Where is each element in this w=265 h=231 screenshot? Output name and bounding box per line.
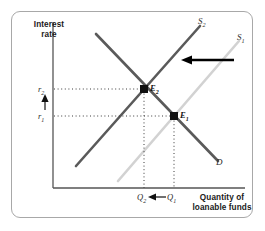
- x-axis-title-line2: loanable funds: [192, 203, 251, 212]
- demand-curve: [96, 34, 218, 161]
- x-axis-title: Quantity of loanable funds: [186, 193, 258, 213]
- tick-label-q2-sub: 2: [143, 198, 146, 204]
- curve-label-d-text: D: [216, 157, 223, 167]
- y-axis-title-line1: Interest: [34, 20, 64, 29]
- equilibrium-label-e2: E2: [150, 83, 159, 95]
- quantity-decrease-arrow-icon: [148, 193, 166, 200]
- tick-label-q1-sub: 1: [173, 198, 176, 204]
- y-axis-title: Interest rate: [26, 20, 72, 40]
- tick-label-r2-sub: 2: [41, 90, 44, 96]
- curve-label-s1-sub: 1: [242, 37, 245, 44]
- figure-root: Interest rate Quantity of loanable funds…: [0, 0, 265, 231]
- curve-label-s1: S1: [237, 32, 245, 44]
- curve-label-d: D: [216, 157, 223, 167]
- equilibrium-marker-e2: [140, 85, 148, 93]
- tick-label-r1-sub: 1: [41, 117, 44, 123]
- curve-label-s2: S2: [198, 16, 206, 28]
- tick-label-r1: r1: [38, 111, 44, 123]
- y-axis-title-line2: rate: [41, 30, 56, 39]
- curve-label-s2-sub: 2: [203, 21, 206, 28]
- tick-label-q1: Q1: [167, 192, 176, 204]
- equilibrium-marker-e1: [170, 112, 178, 120]
- tick-label-q2: Q2: [137, 192, 146, 204]
- x-axis-title-line1: Quantity of: [200, 193, 244, 202]
- equilibrium-label-e1-sub: 1: [186, 116, 189, 122]
- equilibrium-label-e2-sub: 2: [156, 89, 159, 95]
- supply-curve-s2: [76, 26, 200, 166]
- tick-label-r2: r2: [38, 84, 44, 96]
- equilibrium-label-e1: E1: [180, 110, 189, 122]
- rate-increase-arrow-icon: [41, 94, 48, 110]
